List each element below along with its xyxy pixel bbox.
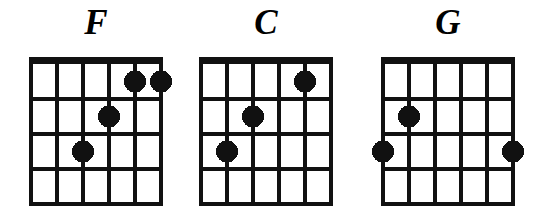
fret-line-2: [199, 132, 333, 136]
chord-title-g: G: [370, 4, 526, 42]
string-line-1: [29, 57, 33, 206]
finger-dot-string3-fret2: [242, 106, 264, 128]
fretboard-f: [18, 57, 174, 217]
nut: [29, 57, 163, 64]
string-line-3: [433, 57, 437, 206]
finger-dot-string5-fret1: [124, 71, 146, 93]
nut: [199, 57, 333, 64]
fret-line-4: [29, 202, 163, 206]
string-line-4: [459, 57, 463, 206]
finger-dot-string6-fret1: [150, 71, 172, 93]
string-line-3: [81, 57, 85, 206]
fret-line-1: [29, 97, 163, 101]
nut: [381, 57, 515, 64]
finger-dot-string3-fret3: [72, 141, 94, 163]
string-line-5: [485, 57, 489, 206]
string-line-4: [277, 57, 281, 206]
chord-diagram-f: F: [18, 0, 174, 219]
finger-dot-string5-fret1: [294, 71, 316, 93]
string-line-2: [55, 57, 59, 206]
chord-chart: FCG: [0, 0, 549, 219]
fret-line-1: [199, 97, 333, 101]
fret-line-1: [381, 97, 515, 101]
string-line-2: [225, 57, 229, 206]
fret-line-2: [29, 132, 163, 136]
string-line-1: [199, 57, 203, 206]
fret-line-4: [199, 202, 333, 206]
fret-line-3: [381, 167, 515, 171]
string-line-2: [407, 57, 411, 206]
string-line-6: [511, 57, 515, 206]
fretboard-c: [188, 57, 344, 217]
fretboard-g: [370, 57, 526, 217]
string-line-3: [251, 57, 255, 206]
fret-line-2: [381, 132, 515, 136]
finger-dot-string1-fret3: [372, 141, 394, 163]
chord-diagram-c: C: [188, 0, 344, 219]
chord-diagram-g: G: [370, 0, 526, 219]
string-line-6: [329, 57, 333, 206]
string-line-4: [107, 57, 111, 206]
chord-title-f: F: [18, 4, 174, 42]
finger-dot-string6-fret3: [502, 141, 524, 163]
finger-dot-string2-fret2: [398, 106, 420, 128]
string-line-1: [381, 57, 385, 206]
fret-line-4: [381, 202, 515, 206]
fret-line-3: [199, 167, 333, 171]
finger-dot-string2-fret3: [216, 141, 238, 163]
fret-line-3: [29, 167, 163, 171]
chord-title-c: C: [188, 4, 344, 42]
finger-dot-string4-fret2: [98, 106, 120, 128]
